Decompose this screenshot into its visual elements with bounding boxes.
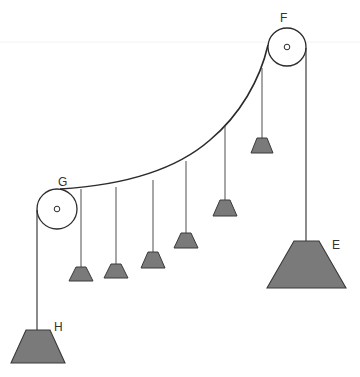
label-G: G xyxy=(58,175,67,189)
pulley-axle xyxy=(54,206,60,212)
weight-small-6 xyxy=(251,138,273,153)
weight-small-5 xyxy=(213,200,237,216)
label-F: F xyxy=(280,11,287,25)
label-H: H xyxy=(54,320,63,334)
pulley-axle xyxy=(284,44,290,50)
weight-small-4 xyxy=(174,233,198,248)
pulley-G xyxy=(37,189,77,229)
weight-small-3 xyxy=(141,252,165,268)
label-E: E xyxy=(332,238,340,252)
weight-small-2 xyxy=(104,264,128,278)
catenary-rope xyxy=(60,45,268,189)
pulley-F xyxy=(268,28,306,66)
weight-H xyxy=(11,330,65,363)
pulley-diagram: F G H E xyxy=(0,0,360,377)
weight-small-1 xyxy=(69,267,93,281)
